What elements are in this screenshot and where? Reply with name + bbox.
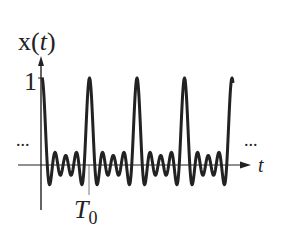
ellipsis-right: ... <box>244 130 258 150</box>
x-axis-label: t <box>258 154 264 176</box>
period-label: T0 <box>74 195 97 228</box>
y-axis-arrow-icon <box>38 56 44 66</box>
y-axis-label: x(t) <box>18 27 56 56</box>
signal-waveform <box>42 78 233 185</box>
y-tick-label-one: 1 <box>24 67 37 96</box>
ellipsis-left: ... <box>16 130 30 150</box>
x-axis-arrow-icon <box>240 162 251 169</box>
signal-diagram: x(t) 1 ... ... t T0 <box>0 0 282 234</box>
